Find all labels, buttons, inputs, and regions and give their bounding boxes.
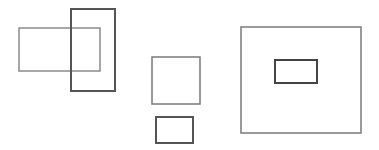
square-middle [152,57,200,104]
small-rect-bottom [156,117,193,143]
large-rect-right [241,27,361,133]
diagram-canvas [0,0,379,150]
tall-rect-overlap [71,9,115,91]
wide-rect-left [19,28,100,71]
inner-rect-right [275,60,317,83]
